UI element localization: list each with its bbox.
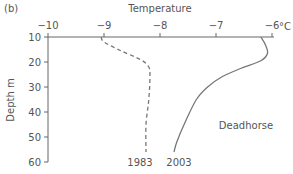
- x-axis-title: Temperature: [127, 3, 191, 14]
- series-1983-line: [101, 37, 150, 152]
- y-tick-label: 30: [28, 82, 41, 93]
- series-1983-label: 1983: [127, 157, 152, 168]
- x-tick-label: −8: [153, 20, 168, 31]
- x-axis-unit: °C: [279, 21, 291, 32]
- x-tick-label: −6: [265, 20, 280, 31]
- series-2003-label: 2003: [166, 157, 191, 168]
- x-tick-label: −10: [37, 20, 58, 31]
- y-tick-label: 60: [28, 157, 41, 168]
- y-tick-label: 20: [28, 57, 41, 68]
- location-annotation: Deadhorse: [219, 120, 273, 131]
- x-tick-label: −9: [97, 20, 112, 31]
- y-tick-label: 40: [28, 107, 41, 118]
- y-tick-label: 10: [28, 32, 41, 43]
- y-axis-title: Depth m: [5, 78, 16, 121]
- y-axis-ticks: 102030405060: [28, 32, 48, 168]
- series-2003-line: [174, 37, 268, 152]
- panel-label: (b): [4, 3, 18, 14]
- temperature-depth-chart: (b) Temperature −10−9−8−7−6 °C 102030405…: [0, 0, 293, 174]
- y-tick-label: 50: [28, 132, 41, 143]
- x-axis-ticks: −10−9−8−7−6: [37, 20, 279, 37]
- x-tick-label: −7: [209, 20, 224, 31]
